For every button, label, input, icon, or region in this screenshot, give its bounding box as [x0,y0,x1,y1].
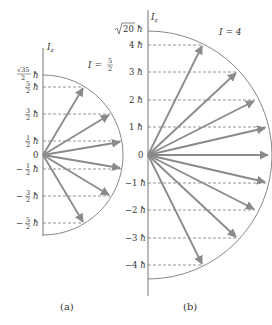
level-label-neg-5-2: − 5 2 ħ [16,216,38,231]
svg-text:ħ: ħ [137,24,142,34]
svg-text:ħ: ħ [33,164,38,174]
level-label-neg-1: −1 ħ [125,178,146,188]
semicircle-arc-a [43,75,123,235]
svg-text:5: 5 [108,57,112,65]
level-label-1-2: 1 2 ħ [25,134,38,149]
level-label-neg-4: −4 ħ [125,260,146,270]
axis-label-a: Iz [46,42,55,53]
svg-text:ħ: ħ [33,82,38,92]
level-labels-a: 5 2 ħ 3 2 ħ 1 2 ħ 0 − 1 2 [16,80,38,231]
level-label-neg-3-2: − 3 2 ħ [16,189,38,204]
max-label-b: 20 ħ [115,23,142,34]
svg-text:I =: I = [87,60,102,70]
diagram-a: Iz I = 5 2 √35 2 ħ 5 2 ħ 3 2 [16,42,123,312]
vectors-b [148,46,268,264]
svg-text:2: 2 [26,141,30,149]
vectors-a [43,88,120,222]
svg-text:2: 2 [108,65,112,73]
diagram-b: Iz I = 4 20 ħ 4 ħ 3 ħ 2 ħ 1 ħ 0 −1 ħ −2 … [115,10,272,312]
svg-text:ħ: ħ [33,70,38,80]
svg-text:ħ: ħ [33,218,38,228]
level-label-neg-1-2: − 1 2 ħ [16,162,38,177]
dashed-levels-a [43,87,121,223]
svg-text:−: − [16,191,23,201]
spin-label-b: I = 4 [218,27,242,37]
level-label-neg-2: −2 ħ [125,205,146,215]
svg-text:ħ: ħ [33,136,38,146]
axis-label-b: Iz [150,12,159,23]
zero-label-a: 0 [33,150,38,160]
level-label-2: 2 ħ [129,95,143,105]
svg-text:√35: √35 [17,66,29,74]
svg-text:2: 2 [26,87,30,95]
angular-momentum-diagram: Iz I = 5 2 √35 2 ħ 5 2 ħ 3 2 [0,0,272,325]
level-label-3-2: 3 2 ħ [25,107,38,122]
svg-text:−: − [16,164,23,174]
level-label-1: 1 ħ [129,122,143,132]
svg-text:20: 20 [123,24,134,34]
level-label-5-2: 5 2 ħ [25,80,38,95]
spin-label-a: I = 5 2 [87,57,113,73]
svg-text:2: 2 [26,196,30,204]
svg-text:ħ: ħ [33,191,38,201]
zero-label-b: 0 [138,150,143,160]
svg-text:2: 2 [26,169,30,177]
level-label-3: 3 ħ [129,67,143,77]
svg-text:2: 2 [21,74,25,82]
svg-text:ħ: ħ [33,109,38,119]
level-label-neg-3: −3 ħ [125,233,146,243]
level-labels-b: 4 ħ 3 ħ 2 ħ 1 ħ 0 −1 ħ −2 ħ −3 ħ −4 ħ [125,40,146,270]
svg-text:2: 2 [26,114,30,122]
svg-text:2: 2 [26,223,30,231]
caption-b: (b) [183,301,197,312]
caption-a: (a) [60,301,74,312]
svg-text:−: − [16,218,23,228]
level-label-4: 4 ħ [129,40,143,50]
